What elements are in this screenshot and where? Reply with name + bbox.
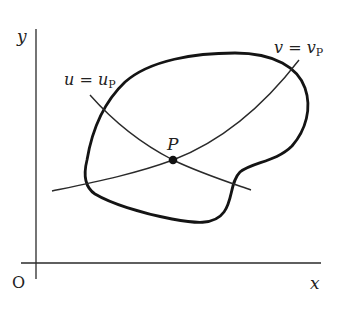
u-curve-label-var: u (64, 70, 74, 89)
u-curve-label-sub: P (108, 78, 116, 91)
origin-label: O (12, 273, 25, 292)
point-p-dot (169, 156, 178, 165)
coordinate-diagram: y x O P u = uP v = vP (0, 0, 346, 313)
x-axis-label: x (310, 273, 320, 293)
point-p-label: P (166, 134, 179, 154)
v-curve-label-var: v (274, 38, 283, 57)
u-curve-label-rhs: u (98, 70, 108, 89)
region-boundary (85, 53, 308, 222)
y-axis-label: y (16, 26, 27, 46)
v-curve-label: v = vP (274, 38, 324, 59)
v-curve-label-sub: P (316, 46, 324, 59)
v-curve-label-eq: = (283, 38, 307, 57)
v-curve-label-rhs: v (307, 38, 316, 57)
u-curve-label: u = uP (64, 70, 116, 91)
u-curve-label-eq: = (74, 70, 98, 89)
